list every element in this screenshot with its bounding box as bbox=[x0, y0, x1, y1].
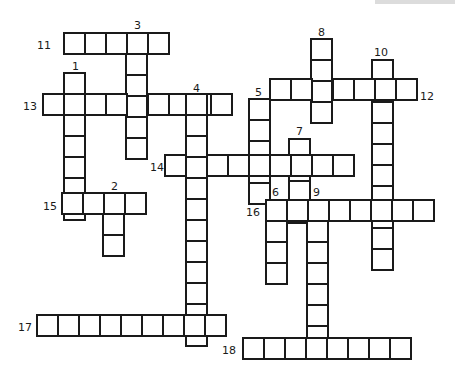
crossword-cell[interactable] bbox=[371, 248, 394, 271]
crossword-cell[interactable] bbox=[265, 241, 288, 264]
crossword-cell[interactable] bbox=[227, 154, 250, 177]
crossword-cell[interactable] bbox=[353, 78, 376, 101]
crossword-cell[interactable] bbox=[84, 32, 107, 55]
crossword-cell[interactable] bbox=[185, 198, 208, 221]
crossword-cell[interactable] bbox=[326, 337, 349, 360]
crossword-cell[interactable] bbox=[290, 154, 313, 177]
crossword-cell[interactable] bbox=[125, 137, 148, 160]
clue-number-7-down: 7 bbox=[296, 126, 303, 137]
crossword-cell[interactable] bbox=[265, 262, 288, 285]
crossword-cell[interactable] bbox=[269, 78, 292, 101]
crossword-cell[interactable] bbox=[332, 78, 355, 101]
crossword-cell[interactable] bbox=[347, 337, 370, 360]
crossword-cell[interactable] bbox=[63, 32, 86, 55]
crossword-cell[interactable] bbox=[290, 78, 313, 101]
crossword-cell[interactable] bbox=[306, 262, 329, 285]
crossword-cell[interactable] bbox=[391, 199, 414, 222]
crossword-cell[interactable] bbox=[147, 93, 170, 116]
crossword-cell[interactable] bbox=[125, 74, 148, 97]
crossword-cell[interactable] bbox=[103, 192, 126, 215]
crossword-cell[interactable] bbox=[57, 314, 80, 337]
crossword-cell[interactable] bbox=[248, 119, 271, 142]
crossword-cell[interactable] bbox=[125, 116, 148, 139]
crossword-cell[interactable] bbox=[374, 78, 397, 101]
crossword-cell[interactable] bbox=[242, 337, 265, 360]
crossword-cell[interactable] bbox=[102, 213, 125, 236]
crossword-cell[interactable] bbox=[310, 38, 333, 61]
crossword-cell[interactable] bbox=[42, 93, 65, 116]
crossword-cell[interactable] bbox=[84, 93, 107, 116]
clue-number-3-down: 3 bbox=[134, 20, 141, 31]
crossword-cell[interactable] bbox=[185, 114, 208, 137]
crossword-cell[interactable] bbox=[371, 122, 394, 145]
crossword-cell[interactable] bbox=[78, 314, 101, 337]
crossword-cell[interactable] bbox=[206, 154, 229, 177]
crossword-cell[interactable] bbox=[349, 199, 372, 222]
crossword-cell[interactable] bbox=[306, 241, 329, 264]
crossword-cell[interactable] bbox=[63, 156, 86, 179]
crossword-cell[interactable] bbox=[284, 337, 307, 360]
crossword-cell[interactable] bbox=[311, 154, 334, 177]
crossword-cell[interactable] bbox=[265, 199, 288, 222]
crossword-cell[interactable] bbox=[185, 261, 208, 284]
crossword-cell[interactable] bbox=[371, 227, 394, 250]
crossword-cell[interactable] bbox=[185, 135, 208, 158]
crossword-cell[interactable] bbox=[332, 154, 355, 177]
crossword-cell[interactable] bbox=[305, 337, 328, 360]
crossword-cell[interactable] bbox=[328, 199, 351, 222]
crossword-cell[interactable] bbox=[63, 135, 86, 158]
crossword-cell[interactable] bbox=[204, 314, 227, 337]
crossword-cell[interactable] bbox=[185, 219, 208, 242]
crossword-cell[interactable] bbox=[63, 114, 86, 137]
crossword-cell[interactable] bbox=[183, 314, 206, 337]
crossword-cell[interactable] bbox=[265, 220, 288, 243]
crossword-cell[interactable] bbox=[307, 199, 330, 222]
crossword-cell[interactable] bbox=[248, 154, 271, 177]
crossword-cell[interactable] bbox=[368, 337, 391, 360]
crossword-cell[interactable] bbox=[389, 337, 412, 360]
crossword-cell[interactable] bbox=[310, 59, 333, 82]
crossword-cell[interactable] bbox=[185, 156, 208, 179]
crossword-cell[interactable] bbox=[105, 32, 128, 55]
crossword-cell[interactable] bbox=[370, 199, 393, 222]
crossword-cell[interactable] bbox=[125, 53, 148, 76]
crossword-cell[interactable] bbox=[310, 101, 333, 124]
clue-number-2-down: 2 bbox=[111, 181, 118, 192]
crossword-cell[interactable] bbox=[82, 192, 105, 215]
crossword-cell[interactable] bbox=[105, 93, 128, 116]
crossword-cell[interactable] bbox=[371, 143, 394, 166]
crossword-cell[interactable] bbox=[120, 314, 143, 337]
crossword-cell[interactable] bbox=[147, 32, 170, 55]
clue-number-1-down: 1 bbox=[72, 61, 79, 72]
crossword-cell[interactable] bbox=[306, 283, 329, 306]
crossword-cell[interactable] bbox=[310, 80, 333, 103]
crossword-cell[interactable] bbox=[102, 234, 125, 257]
crossword-cell[interactable] bbox=[412, 199, 435, 222]
crossword-cell[interactable] bbox=[185, 240, 208, 263]
crossword-cell[interactable] bbox=[141, 314, 164, 337]
crossword-cell[interactable] bbox=[162, 314, 185, 337]
crossword-cell[interactable] bbox=[61, 192, 84, 215]
crossword-cell[interactable] bbox=[286, 199, 309, 222]
crossword-cell[interactable] bbox=[185, 93, 208, 116]
crossword-cell[interactable] bbox=[125, 95, 148, 118]
crossword-cell[interactable] bbox=[263, 337, 286, 360]
crossword-cell[interactable] bbox=[126, 32, 149, 55]
crossword-cell[interactable] bbox=[210, 93, 233, 116]
crossword-cell[interactable] bbox=[371, 101, 394, 124]
crossword-cell[interactable] bbox=[306, 304, 329, 327]
crossword-cell[interactable] bbox=[124, 192, 147, 215]
crossword-cell[interactable] bbox=[164, 154, 187, 177]
crossword-cell[interactable] bbox=[306, 220, 329, 243]
crossword-cell[interactable] bbox=[395, 78, 418, 101]
crossword-cell[interactable] bbox=[99, 314, 122, 337]
crossword-cell[interactable] bbox=[36, 314, 59, 337]
crossword-cell[interactable] bbox=[269, 154, 292, 177]
crossword-cell[interactable] bbox=[63, 93, 86, 116]
crossword-cell[interactable] bbox=[185, 177, 208, 200]
crossword-cell[interactable] bbox=[185, 282, 208, 305]
crossword-cell[interactable] bbox=[371, 164, 394, 187]
crossword-cell[interactable] bbox=[63, 72, 86, 95]
crossword-cell[interactable] bbox=[248, 98, 271, 121]
